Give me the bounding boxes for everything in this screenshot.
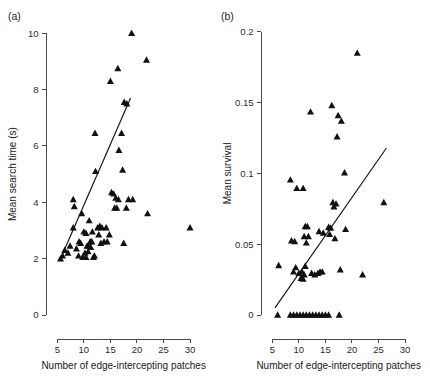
data-point-marker xyxy=(128,30,135,36)
data-point-marker xyxy=(115,147,122,153)
x-tick-label: 10 xyxy=(79,344,90,355)
data-point-marker xyxy=(331,235,338,241)
y-tick-label: 4 xyxy=(33,197,38,208)
data-point-marker xyxy=(119,166,126,172)
y-tick-label: 0 xyxy=(248,309,253,320)
x-tick-label: 20 xyxy=(132,344,143,355)
data-point-marker xyxy=(338,117,345,123)
data-point-marker xyxy=(274,311,281,317)
data-point-marker xyxy=(335,112,342,118)
data-point-marker xyxy=(118,130,125,136)
x-axis: 51015202530 xyxy=(270,339,411,355)
data-point-marker xyxy=(380,199,387,205)
data-point-marker xyxy=(287,176,294,182)
data-point-marker xyxy=(275,262,282,268)
x-tick-label: 25 xyxy=(158,344,169,355)
data-point-marker xyxy=(107,77,114,83)
data-point-marker xyxy=(71,203,78,209)
y-tick-label: 8 xyxy=(33,84,38,95)
data-point-marker xyxy=(144,210,151,216)
y-tick-label: 0.05 xyxy=(235,239,254,250)
data-point-marker xyxy=(114,65,121,71)
y-tick-label: 0.15 xyxy=(235,97,254,108)
data-point-marker xyxy=(187,224,194,230)
x-tick-label: 30 xyxy=(400,344,411,355)
x-axis-title: Number of edge-intercepting patches xyxy=(41,360,206,371)
y-tick-label: 6 xyxy=(33,140,38,151)
data-point-marker xyxy=(337,266,344,272)
data-point-marker xyxy=(73,245,80,251)
x-tick-label: 5 xyxy=(55,344,60,355)
y-tick-label: 0 xyxy=(33,309,38,320)
data-point-marker xyxy=(293,185,300,191)
x-tick-label: 20 xyxy=(347,344,358,355)
data-point-marker xyxy=(303,239,310,245)
panel-tag: (b) xyxy=(221,10,234,22)
data-point-marker xyxy=(92,130,99,136)
panel-b: 00.050.10.150.251015202530Number of edge… xyxy=(215,0,430,384)
x-tick-label: 15 xyxy=(320,344,331,355)
y-axis-title: Mean survival xyxy=(222,143,233,205)
x-axis: 51015202530 xyxy=(55,339,196,355)
data-point-marker xyxy=(106,231,113,237)
data-point-marker xyxy=(89,228,96,234)
y-tick-label: 0.1 xyxy=(240,168,253,179)
x-axis-title: Number of edge-intercepting patches xyxy=(256,360,421,371)
x-tick-label: 15 xyxy=(105,344,116,355)
x-tick-label: 25 xyxy=(373,344,384,355)
data-point-marker xyxy=(300,185,307,191)
y-tick-label: 2 xyxy=(33,253,38,264)
data-point-marker xyxy=(143,56,150,62)
x-tick-label: 30 xyxy=(185,344,196,355)
y-tick-label: 10 xyxy=(28,28,39,39)
data-points xyxy=(274,49,387,317)
data-point-marker xyxy=(359,271,366,277)
regression-line xyxy=(60,98,131,260)
data-point-marker xyxy=(78,210,85,216)
data-point-marker xyxy=(120,239,127,245)
data-points xyxy=(57,30,194,262)
data-point-marker xyxy=(75,252,82,258)
data-point-marker xyxy=(70,196,77,202)
data-point-marker xyxy=(341,169,348,175)
plot-b: 00.050.10.150.251015202530Number of edge… xyxy=(215,0,430,384)
y-tick-label: 0.2 xyxy=(240,26,253,37)
data-point-marker xyxy=(86,217,93,223)
plot-a: 024681051015202530Number of edge-interce… xyxy=(0,0,215,384)
y-axis: 0246810 xyxy=(28,28,46,321)
data-point-marker xyxy=(354,49,361,55)
data-point-marker xyxy=(91,252,98,258)
data-point-marker xyxy=(95,231,102,237)
panel-tag: (a) xyxy=(8,10,21,22)
y-axis: 00.050.10.150.2 xyxy=(235,26,261,320)
y-axis-title: Mean search time (s) xyxy=(7,127,18,221)
data-point-marker xyxy=(103,224,110,230)
data-point-marker xyxy=(92,168,99,174)
data-point-marker xyxy=(307,108,314,114)
data-point-marker xyxy=(328,102,335,108)
data-point-marker xyxy=(123,204,130,210)
panel-a: 024681051015202530Number of edge-interce… xyxy=(0,0,215,384)
data-point-marker xyxy=(302,262,309,268)
x-tick-label: 5 xyxy=(270,344,275,355)
figure-container: 024681051015202530Number of edge-interce… xyxy=(0,0,430,384)
data-point-marker xyxy=(129,196,136,202)
data-point-marker xyxy=(336,311,343,317)
data-point-marker xyxy=(305,233,312,239)
data-point-marker xyxy=(342,226,349,232)
x-tick-label: 10 xyxy=(294,344,305,355)
data-point-marker xyxy=(334,133,341,139)
